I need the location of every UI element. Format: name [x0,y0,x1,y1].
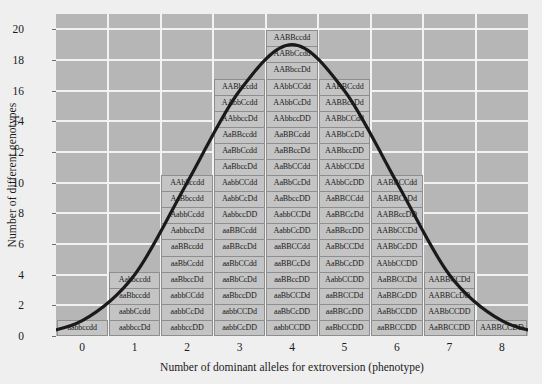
genotype-cell: AabbCcdd [161,207,212,223]
x-axis-title: Number of dominant alleles for extrovers… [56,361,528,373]
genotype-cell: AaBbCCDd [319,239,370,255]
genotype-cell: aaBBCCDD [371,320,422,336]
genotype-column: aabbccDdaabbCcddaaBbccddAabbccdd [109,272,160,336]
genotype-cell: aaBbCcdd [161,256,212,272]
genotype-distribution-figure: Number of different genotypes 0246810121… [0,0,542,384]
y-tick-label: 18 [0,55,24,65]
genotype-cell: AaBBccDd [266,143,317,159]
x-tick-label: 3 [220,341,260,353]
genotype-cell: aaBBCcdd [214,223,265,239]
genotype-column: aabbccDDaabbCcDdaabbCCddaaBbccDdaaBbCcdd… [161,175,212,336]
genotype-cell: aabbCcDD [214,320,265,336]
genotype-cell: AaBBCcDD [371,288,422,304]
genotype-cell: AABBccDd [319,95,370,111]
y-tick-label: 4 [0,270,24,280]
genotype-cell: aaBBCCdd [266,239,317,255]
genotype-cell: aaBbCCdd [214,256,265,272]
x-tick-label: 7 [429,341,469,353]
genotype-cell: AaBBccdd [214,127,265,143]
genotype-cell: AABbCcDd [319,127,370,143]
genotype-cell: AABbCcDD [371,239,422,255]
genotype-column: AABBCCDD [476,320,527,336]
genotype-cell: aabbCCDd [214,304,265,320]
genotype-cell: AabbccDd [161,223,212,239]
x-tick-label: 1 [115,341,155,353]
genotype-cell: aabbccDd [109,320,160,336]
genotype-cell: aaBbCCDd [266,288,317,304]
genotype-cell: AaBbccdd [161,191,212,207]
genotype-cell: aaBbccdd [109,288,160,304]
genotype-cell: AaBBCCDd [371,272,422,288]
genotype-cell: AaBBCCDD [424,320,475,336]
genotype-cell: aaBBCCDd [319,288,370,304]
genotype-cell: AABBCCDD [476,320,527,336]
genotype-cell: aaBBccDD [266,272,317,288]
x-tick-label: 5 [324,341,364,353]
genotype-cell: AaBbccDD [266,191,317,207]
genotype-cell: AABBCCDd [424,272,475,288]
genotype-cell: aaBBCcDD [319,304,370,320]
genotype-column: aabbCCDDaaBbCcDDaaBbCCDdaaBBccDDaaBBCcDd… [266,30,317,336]
genotype-column: AaBBCCDDAABbCCDDAABBCcDDAABBCCDd [424,272,475,336]
genotype-cell: aaBbCcDd [214,272,265,288]
y-tick-label: 8 [0,208,24,218]
genotype-cell: aaBBccdd [161,239,212,255]
genotype-cell: AabbCCDD [319,272,370,288]
genotype-cell: AabbCcDD [266,223,317,239]
plot-area: aabbccddaabbccDdaabbCcddaaBbccddAabbccdd… [56,14,528,336]
genotype-cell: Aabbccdd [109,272,160,288]
genotype-cell: AABBccDD [371,207,422,223]
genotype-cell: aabbCCdd [161,288,212,304]
genotype-cell: AAbbCcdd [214,95,265,111]
genotype-cell: aaBbccDD [214,288,265,304]
x-tick-label: 6 [377,341,417,353]
genotype-cell: AABbccDD [319,143,370,159]
x-tick-label: 8 [482,341,522,353]
genotype-cell: aaBbCCDD [319,320,370,336]
genotype-cell: AaBbCcDd [266,175,317,191]
genotype-cell: aaBBCcDd [266,256,317,272]
y-tick-label: 6 [0,239,24,249]
genotype-column: aaBBCCDDAaBbCCDDAaBBCcDDAaBBCCDdAAbbCCDD… [371,175,422,336]
x-tick-label: 4 [272,341,312,353]
genotype-cell: aabbCcDd [161,304,212,320]
genotype-cell: AABBCcDD [424,288,475,304]
genotype-cell: AAbbCCdd [266,79,317,95]
genotype-cell: AAbbccDd [214,111,265,127]
genotype-cell: AAbbCCDd [319,159,370,175]
genotype-cell: AaBbCcDD [319,256,370,272]
genotype-cell: aabbCcdd [109,304,160,320]
y-tick-label: 16 [0,86,24,96]
genotype-cell: AAbbCCDD [371,256,422,272]
genotype-cell: aaBbCcDD [266,304,317,320]
genotype-cell: aaBBccDd [214,239,265,255]
genotype-cell: AaBbCcdd [214,143,265,159]
genotype-cell: AAbbccdd [161,175,212,191]
genotype-cell: AaBBCcDd [319,207,370,223]
genotype-cell: AabbCcDd [214,191,265,207]
genotype-column: aabbCcDDaabbCCDdaaBbccDDaaBbCcDdaaBbCCdd… [214,79,265,337]
genotype-cell: AABBCcdd [319,79,370,95]
genotype-cell: AaBbccDd [214,159,265,175]
y-tick-label: 12 [0,147,24,157]
genotype-cell: AABBCCdd [371,175,422,191]
x-tick-label: 2 [167,341,207,353]
genotype-cell: AABbCCdd [319,111,370,127]
genotype-cell: aaBbccDd [161,272,212,288]
y-tick-label: 0 [0,331,24,341]
genotype-cell: AaBBCcdd [266,127,317,143]
genotype-cell: AabbccDD [214,207,265,223]
genotype-cell: AaBBCCdd [319,191,370,207]
genotype-cell: aabbccdd [57,320,108,336]
genotype-cell: AabbCCDd [266,207,317,223]
genotype-cell: AAbbCcDd [266,95,317,111]
x-tick-label: 0 [62,341,102,353]
genotype-cell: AABbccDd [266,62,317,78]
genotype-cell: AaBbCCDD [371,304,422,320]
y-tick-label: 10 [0,178,24,188]
genotype-cell: AABbCCDD [424,304,475,320]
genotype-cell: AABbCCDd [371,223,422,239]
genotype-cell: AABbCcdd [266,46,317,62]
genotype-column: aabbccdd [57,320,108,336]
genotype-cell: AAbbCcDD [319,175,370,191]
